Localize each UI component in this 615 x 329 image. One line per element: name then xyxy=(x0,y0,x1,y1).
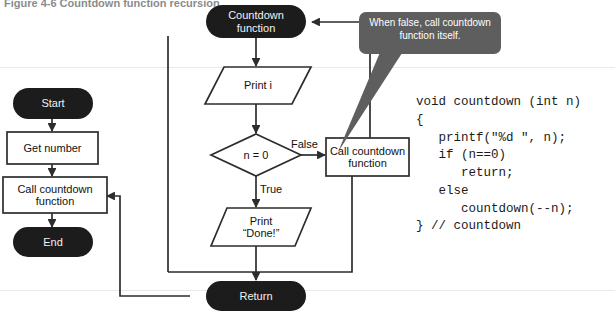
shape-end-terminator xyxy=(13,227,93,257)
edge-label-true: True xyxy=(260,183,282,195)
shape-decision-n-equals-zero xyxy=(211,134,301,176)
callout-body xyxy=(359,12,501,54)
shape-get-number xyxy=(7,132,98,164)
shape-countdown-function-terminator xyxy=(206,5,306,38)
figure-canvas: Figure 4-6 Countdown function recursion xyxy=(0,0,615,329)
code-listing: void countdown (int n) { printf("%d ", n… xyxy=(416,94,581,236)
shape-main-call-countdown xyxy=(3,177,107,213)
shape-print-done xyxy=(211,208,311,246)
connector-return-to-main-call xyxy=(107,196,190,296)
shape-start-terminator xyxy=(13,88,93,119)
shape-return-terminator xyxy=(206,281,306,311)
shape-recursive-call-countdown xyxy=(326,138,409,176)
callout-tail xyxy=(338,50,404,152)
edge-label-false: False xyxy=(291,138,318,150)
shape-print-i xyxy=(205,67,311,104)
